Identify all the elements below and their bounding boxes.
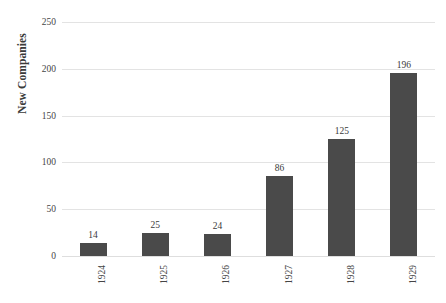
y-axis-tick-label: 150 — [22, 111, 56, 121]
bar-value-label: 196 — [384, 60, 424, 70]
bar-value-label: 125 — [322, 126, 362, 136]
y-axis-tick-label: 50 — [22, 204, 56, 214]
bar[interactable] — [328, 139, 355, 256]
bar-value-label: 25 — [135, 220, 175, 230]
x-axis-tick-label: 1924 — [97, 265, 107, 284]
bar[interactable] — [204, 234, 231, 257]
plot-area: 14252486125196 — [62, 22, 435, 256]
bar-value-label: 14 — [73, 230, 113, 240]
x-axis-tick-label: 1925 — [159, 265, 169, 284]
axis-baseline — [62, 256, 435, 257]
y-axis-tick-label: 100 — [22, 157, 56, 167]
y-axis-tick-label: 0 — [22, 251, 56, 261]
bar-value-label: 24 — [197, 221, 237, 231]
y-axis-tick-label: 200 — [22, 64, 56, 74]
gridline — [62, 162, 435, 163]
y-axis-tick-label: 250 — [22, 17, 56, 27]
bar[interactable] — [142, 233, 169, 256]
bar[interactable] — [390, 73, 417, 257]
gridline — [62, 209, 435, 210]
bar[interactable] — [266, 176, 293, 257]
x-axis-tick-label: 1926 — [221, 265, 231, 284]
gridline — [62, 69, 435, 70]
gridline — [62, 22, 435, 23]
x-axis-tick-label: 1929 — [408, 265, 418, 284]
bar[interactable] — [80, 243, 107, 256]
x-axis-tick-label: 1927 — [284, 265, 294, 284]
bar-value-label: 86 — [260, 163, 300, 173]
gridline — [62, 116, 435, 117]
x-axis-tick-label: 1928 — [346, 265, 356, 284]
bar-chart: New Companies 14252486125196 05010015020… — [0, 0, 446, 303]
